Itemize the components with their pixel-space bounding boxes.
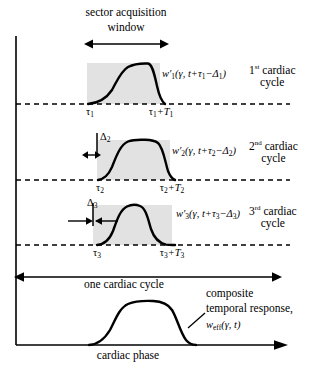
sector-window-shade-1 [87, 63, 160, 104]
cycle-word2-3: cycle [261, 217, 285, 229]
formula-minus-1: −Δ [205, 68, 218, 79]
formula-close-2: ) [232, 145, 236, 156]
tau3T3-sub2: 3 [181, 251, 185, 260]
cycle-label-2: 2nd cardiac cycle [249, 140, 298, 164]
tau2T2-sub2: 2 [181, 186, 185, 195]
response-formula-2: w′2(γ, t+τ2−Δ2) [172, 145, 236, 158]
delta3-sub: 3 [94, 201, 98, 210]
tick-label-tau1-T1: τ1+T1 [149, 106, 174, 119]
tau2T2-plus: +T [168, 182, 181, 193]
cycle-word-2: cardiac [265, 140, 298, 152]
formula-args-2: (γ, t+τ [185, 145, 212, 156]
tau2-sub: 2 [100, 186, 104, 195]
delta3-symbol: Δ [87, 197, 94, 208]
formula-close-1: ) [222, 68, 226, 79]
delta-2-label: Δ2 [100, 131, 111, 144]
cycle-ordinal-suffix-2: nd [255, 139, 262, 147]
tick-label-tau3: τ3 [93, 247, 101, 260]
delta2-symbol: Δ [100, 131, 107, 142]
tau1-sub: 1 [90, 110, 94, 119]
chart-title-line1: sector acquisition [86, 6, 167, 18]
formula-w-3: w [176, 208, 183, 219]
response-formula-1: w′1(γ, t+τ1−Δ1) [162, 68, 226, 81]
tick-label-tau1: τ1 [86, 106, 94, 119]
response-formula-3: w′3(γ, t+τ3−Δ3) [176, 208, 240, 221]
tau3-sub: 3 [97, 251, 101, 260]
cycle-word-1: cardiac [262, 64, 295, 76]
formula-w-1: w [162, 68, 169, 79]
cycle-label-1: 1st cardiac cycle [249, 64, 296, 88]
cycle-word2-2: cycle [261, 152, 285, 164]
chart-title-line2: window [107, 21, 144, 33]
tick-label-tau3-T3: τ3+T3 [160, 247, 185, 260]
composite-leader-line [188, 313, 205, 328]
sector-window-arrow [84, 40, 169, 49]
figure-canvas: sector acquisition window w′1(γ, t+τ1−Δ1… [0, 0, 324, 377]
delta-3-label: Δ3 [87, 197, 98, 210]
tau1T1-plus: +T [157, 106, 170, 117]
cycle-word2-1: cycle [260, 76, 284, 88]
delta2-sub: 2 [107, 135, 111, 144]
cycle-label-3: 3rd cardiac cycle [249, 205, 297, 229]
x-axis-arrowhead [274, 340, 288, 350]
composite-label-line2: temporal response, [206, 302, 293, 314]
formula-args-1: (γ, t+τ [175, 68, 202, 79]
formula-close-3: ) [236, 208, 240, 219]
tick-label-tau2-T2: τ2+T2 [160, 182, 185, 195]
formula-minus-3: −Δ [219, 208, 232, 219]
formula-w-2: w [172, 145, 179, 156]
composite-formula-w: w [206, 319, 213, 330]
formula-minus-2: −Δ [215, 145, 228, 156]
tau3T3-plus: +T [168, 247, 181, 258]
composite-formula-args: (γ, t) [221, 319, 240, 330]
tau1T1-sub2: 1 [170, 110, 174, 119]
cycle-word-3: cardiac [263, 205, 296, 217]
sector-window-shade-3 [93, 205, 172, 245]
composite-label-line1: composite [206, 287, 253, 299]
tick-label-tau2: τ2 [96, 182, 104, 195]
cycle-ordinal-suffix-1: st [255, 63, 260, 71]
composite-formula: weff(γ, t) [206, 319, 241, 332]
formula-args-3: (γ, t+τ [189, 208, 216, 219]
x-axis-label: cardiac phase [97, 349, 159, 361]
one-cardiac-cycle-label: one cardiac cycle [84, 278, 164, 290]
composite-response-curve [89, 301, 196, 345]
composite-formula-sub: eff [213, 323, 221, 332]
cycle-ordinal-suffix-3: rd [255, 204, 261, 212]
